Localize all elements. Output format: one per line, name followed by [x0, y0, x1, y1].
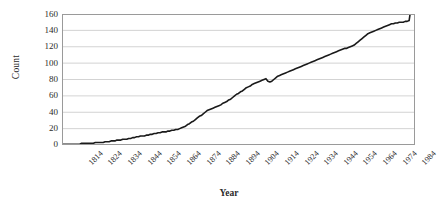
chart-canvas	[62, 14, 415, 145]
x-tick-1944: 1944	[342, 149, 360, 167]
y-tick-100: 100	[32, 59, 58, 68]
y-tick-80: 80	[32, 75, 58, 84]
x-tick-1824: 1824	[106, 149, 124, 167]
x-tick-1844: 1844	[145, 149, 163, 167]
x-tick-1984: 1984	[420, 149, 438, 167]
gridlines	[62, 14, 415, 129]
x-tick-1934: 1934	[322, 149, 340, 167]
x-tick-1974: 1974	[400, 149, 418, 167]
y-tick-140: 140	[32, 26, 58, 35]
x-tick-1914: 1914	[283, 149, 301, 167]
data-series-line	[62, 14, 413, 144]
x-tick-1964: 1964	[381, 149, 399, 167]
plot-area	[62, 14, 415, 145]
x-tick-1894: 1894	[244, 149, 262, 167]
y-tick-60: 60	[32, 91, 58, 100]
x-tick-1854: 1854	[165, 149, 183, 167]
x-tick-1904: 1904	[263, 149, 281, 167]
y-tick-0: 0	[32, 140, 58, 149]
y-axis-tick-labels: 160 140 120 100 80 60 40 20 0	[30, 0, 58, 160]
y-axis-title: Count	[11, 37, 21, 97]
x-tick-1924: 1924	[302, 149, 320, 167]
x-axis-title: Year	[0, 188, 428, 198]
y-tick-20: 20	[32, 124, 58, 133]
x-tick-1874: 1874	[204, 149, 222, 167]
x-tick-1864: 1864	[185, 149, 203, 167]
x-axis-tick-labels: 1814182418341844185418641874188418941904…	[62, 147, 422, 187]
x-tick-1814: 1814	[87, 149, 105, 167]
y-tick-120: 120	[32, 42, 58, 51]
x-tick-1884: 1884	[224, 149, 242, 167]
x-tick-1834: 1834	[126, 149, 144, 167]
y-tick-160: 160	[32, 10, 58, 19]
x-tick-1954: 1954	[361, 149, 379, 167]
y-tick-40: 40	[32, 108, 58, 117]
